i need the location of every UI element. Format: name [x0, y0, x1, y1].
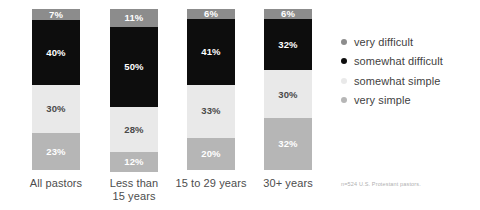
legend-item-label: somewhat simple	[354, 75, 440, 87]
segment-value-label: 33%	[201, 106, 220, 116]
segment-somewhat-difficult[interactable]: 50%	[110, 27, 158, 108]
segment-value-label: 11%	[125, 13, 144, 23]
segment-value-label: 32%	[278, 40, 297, 50]
segment-value-label: 12%	[124, 157, 143, 167]
chart-legend: very difficult somewhat difficult somewh…	[341, 32, 480, 110]
legend-item-somewhat-simple[interactable]: somewhat simple	[341, 71, 480, 91]
segment-very-simple[interactable]: 32%	[264, 118, 312, 170]
segment-very-simple[interactable]: 23%	[32, 133, 80, 170]
category-label-line: 30+ years	[249, 177, 327, 190]
bar-group-15-to-29-years[interactable]: 6% 41% 33% 20%	[187, 9, 235, 170]
category-label-line: Less than	[95, 177, 173, 190]
category-label-30-plus-years: 30+ years	[249, 177, 327, 190]
segment-very-simple[interactable]: 12%	[110, 152, 158, 171]
legend-dot-icon	[341, 58, 347, 64]
segment-value-label: 30%	[278, 90, 297, 100]
bar-group-all-pastors[interactable]: 7% 40% 30% 23%	[32, 9, 80, 170]
category-label-line: 15 to 29 years	[172, 177, 250, 190]
segment-value-label: 23%	[46, 147, 65, 157]
segment-value-label: 20%	[201, 149, 220, 159]
chart-footnote: n=524 U.S. Protestant pastors.	[341, 181, 421, 187]
segment-value-label: 41%	[201, 47, 220, 57]
segment-somewhat-simple[interactable]: 28%	[110, 107, 158, 152]
legend-item-label: very simple	[354, 94, 411, 106]
bar-stack: 11% 50% 28% 12%	[110, 9, 158, 170]
segment-very-difficult[interactable]: 7%	[32, 9, 80, 20]
bar-stack: 6% 41% 33% 20%	[187, 9, 235, 170]
segment-value-label: 7%	[49, 10, 63, 20]
legend-item-label: very difficult	[354, 36, 413, 48]
bar-group-less-than-15-years[interactable]: 11% 50% 28% 12%	[110, 9, 158, 170]
bar-stack: 6% 32% 30% 32%	[264, 9, 312, 170]
stacked-bar-chart: 7% 40% 30% 23% 11% 50%	[0, 0, 480, 210]
segment-value-label: 6%	[281, 9, 295, 19]
legend-item-label: somewhat difficult	[354, 55, 443, 67]
segment-very-simple[interactable]: 20%	[187, 138, 235, 170]
legend-dot-icon	[341, 78, 347, 84]
segment-value-label: 28%	[124, 125, 143, 135]
segment-very-difficult[interactable]: 6%	[187, 9, 235, 19]
category-label-line: All pastors	[17, 177, 95, 190]
legend-item-very-difficult[interactable]: very difficult	[341, 32, 480, 52]
segment-value-label: 50%	[124, 62, 143, 72]
segment-very-difficult[interactable]: 11%	[110, 9, 158, 27]
segment-somewhat-difficult[interactable]: 41%	[187, 19, 235, 85]
segment-value-label: 6%	[204, 9, 218, 19]
segment-somewhat-difficult[interactable]: 40%	[32, 20, 80, 84]
legend-item-very-simple[interactable]: very simple	[341, 91, 480, 111]
bar-group-30-plus-years[interactable]: 6% 32% 30% 32%	[264, 9, 312, 170]
segment-value-label: 30%	[46, 104, 65, 114]
segment-value-label: 40%	[46, 48, 65, 58]
segment-somewhat-difficult[interactable]: 32%	[264, 19, 312, 71]
plot-area: 7% 40% 30% 23% 11% 50%	[0, 0, 330, 210]
bar-stack: 7% 40% 30% 23%	[32, 9, 80, 170]
legend-dot-icon	[341, 97, 347, 103]
segment-somewhat-simple[interactable]: 30%	[264, 70, 312, 118]
category-label-less-than-15-years: Less than 15 years	[95, 177, 173, 202]
segment-value-label: 32%	[278, 139, 297, 149]
category-label-line: 15 years	[95, 190, 173, 203]
legend-item-somewhat-difficult[interactable]: somewhat difficult	[341, 52, 480, 72]
category-label-15-to-29-years: 15 to 29 years	[172, 177, 250, 190]
segment-somewhat-simple[interactable]: 33%	[187, 85, 235, 138]
segment-somewhat-simple[interactable]: 30%	[32, 85, 80, 133]
category-label-all-pastors: All pastors	[17, 177, 95, 190]
legend-dot-icon	[341, 39, 347, 45]
segment-very-difficult[interactable]: 6%	[264, 9, 312, 19]
